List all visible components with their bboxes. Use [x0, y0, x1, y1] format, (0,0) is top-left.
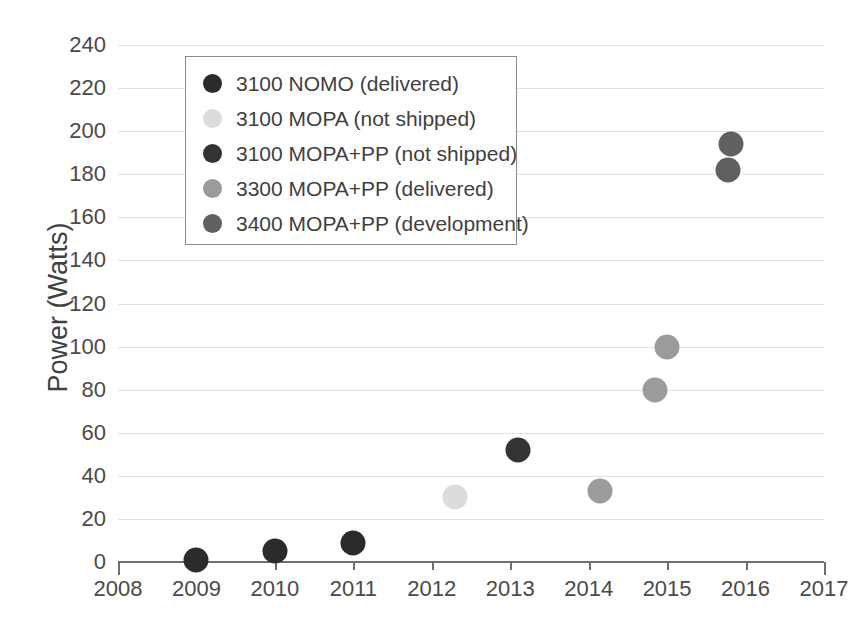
- chart-legend: 3100 NOMO (delivered)3100 MOPA (not ship…: [185, 56, 517, 245]
- legend-marker-icon: [203, 109, 222, 128]
- legend-item[interactable]: 3400 MOPA+PP (development): [186, 206, 516, 241]
- x-tick-label: 2011: [313, 578, 393, 600]
- legend-item[interactable]: 3300 MOPA+PP (delivered): [186, 171, 516, 206]
- legend-marker-icon: [203, 179, 222, 198]
- legend-marker-icon: [203, 74, 222, 93]
- legend-item-label: 3100 NOMO (delivered): [236, 73, 459, 94]
- legend-item[interactable]: 3100 MOPA+PP (not shipped): [186, 136, 516, 171]
- x-tick-label: 2008: [78, 578, 158, 600]
- x-tick-label: 2017: [784, 578, 864, 600]
- power-scatter-chart: Power (Watts) 02040608010012014016018020…: [0, 0, 866, 626]
- x-tick-label: 2016: [706, 578, 786, 600]
- legend-item-label: 3400 MOPA+PP (development): [236, 213, 529, 234]
- x-tick-label: 2015: [627, 578, 707, 600]
- x-tick-label: 2013: [470, 578, 550, 600]
- legend-marker-icon: [203, 214, 222, 233]
- x-tick-label: 2014: [549, 578, 629, 600]
- legend-item-label: 3300 MOPA+PP (delivered): [236, 178, 494, 199]
- legend-item-label: 3100 MOPA+PP (not shipped): [236, 143, 517, 164]
- x-tick-label: 2010: [235, 578, 315, 600]
- x-tick-label: 2012: [392, 578, 472, 600]
- legend-marker-icon: [203, 144, 222, 163]
- legend-item[interactable]: 3100 MOPA (not shipped): [186, 101, 516, 136]
- legend-item-label: 3100 MOPA (not shipped): [236, 108, 476, 129]
- legend-item[interactable]: 3100 NOMO (delivered): [186, 66, 516, 101]
- x-tick-label: 2009: [156, 578, 236, 600]
